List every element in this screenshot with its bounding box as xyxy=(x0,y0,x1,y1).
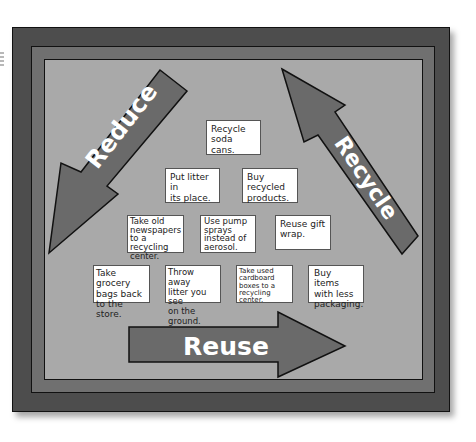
card-use-pump-sprays: Use pump sprays instead of aerosol. xyxy=(200,215,256,253)
reuse-arrow: Reuse xyxy=(129,312,345,377)
card-line: Buy recycled xyxy=(247,172,294,193)
card-throw-away-litter: Throw away litter you see on the ground. xyxy=(165,265,221,303)
recycle-arrow-label: Recycle xyxy=(329,132,403,225)
card-line: Take grocery xyxy=(96,268,147,289)
card-put-litter-in-place: Put litter in its place. xyxy=(165,168,220,203)
card-line: products. xyxy=(247,193,294,203)
card-recycle-soda-cans: Recycle soda cans. xyxy=(206,120,261,155)
card-line: Reuse gift xyxy=(280,219,327,229)
card-take-grocery-bags: Take grocery bags back to the store. xyxy=(93,265,150,303)
card-buy-recycled-products: Buy recycled products. xyxy=(242,168,298,203)
card-line: soda cans. xyxy=(211,134,257,155)
card-line: on the ground. xyxy=(168,307,218,327)
card-take-used-cardboard: Take used cardboard boxes to a recycling… xyxy=(236,265,293,303)
card-line: recycling center. xyxy=(239,290,290,305)
card-line: Buy items xyxy=(314,268,358,289)
card-line: packaging. xyxy=(314,299,358,309)
card-line: bags back xyxy=(96,289,147,299)
card-line: to the store. xyxy=(96,299,147,320)
card-line: wrap. xyxy=(280,229,327,239)
card-line: with less xyxy=(314,289,358,299)
card-reuse-gift-wrap: Reuse gift wrap. xyxy=(275,215,331,250)
card-line: Put litter in xyxy=(170,172,216,193)
card-line: to a recycling xyxy=(130,234,181,251)
card-line: litter you see xyxy=(168,288,218,308)
card-line: Recycle xyxy=(211,124,257,134)
card-buy-less-packaging: Buy items with less packaging. xyxy=(308,265,364,303)
reuse-arrow-label: Reuse xyxy=(183,332,269,361)
card-take-old-newspapers: Take old newspapers to a recycling cente… xyxy=(127,215,184,253)
card-line: its place. xyxy=(170,193,216,203)
card-line: aerosol. xyxy=(204,243,252,252)
card-line: Throw away xyxy=(168,268,218,288)
card-line: center. xyxy=(130,252,181,261)
